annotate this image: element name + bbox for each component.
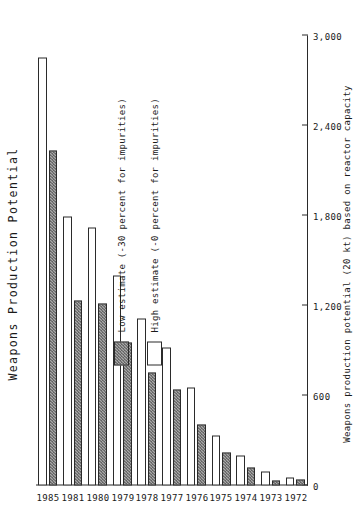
bar-low-estimate [74,301,83,486]
bar-low-estimate [296,479,305,485]
value-tick-label: 0 [313,481,319,491]
bar-low-estimate [49,151,58,486]
chart-legend: Low estimate (-30 percent for impurities… [114,98,162,365]
category-axis-line [307,35,308,485]
chart-figure: Weapons Production Potential 06001,2001,… [0,0,356,527]
category-label: 1980 [86,492,109,502]
bar-high-estimate [38,58,47,486]
category-label: 1979 [111,492,134,502]
bar-high-estimate [88,227,97,485]
bar-low-estimate [197,424,206,485]
value-tick-label: 2,400 [313,121,342,131]
value-tick-label: 600 [313,391,330,401]
chart-title: Weapons Production Potential [6,0,20,527]
bar-low-estimate [247,467,256,485]
bar-low-estimate [98,304,107,486]
legend-swatch-high [147,341,162,365]
value-tick [302,394,308,395]
value-tick-label: 1,200 [313,301,342,311]
bar-high-estimate [286,477,295,485]
legend-label: High estimate (-0 percent for impurities… [150,98,160,332]
bar-high-estimate [187,387,196,485]
bar-low-estimate [222,452,231,485]
category-label: 1985 [37,492,60,502]
bar-high-estimate [63,217,72,486]
bar-low-estimate [148,372,157,485]
category-label: 1972 [284,492,307,502]
category-label: 1981 [62,492,85,502]
value-tick [302,34,308,35]
legend-swatch-low [114,341,129,365]
category-label: 1977 [161,492,184,502]
bar-high-estimate [162,347,171,485]
value-tick [302,304,308,305]
bar-low-estimate [272,481,281,486]
bar-high-estimate [212,436,221,486]
value-tick [302,124,308,125]
value-tick [302,214,308,215]
category-label: 1975 [210,492,233,502]
category-label: 1976 [185,492,208,502]
x-axis-caption: Weapons production potential (20 kt) bas… [342,0,352,527]
bar-high-estimate [236,455,245,485]
category-label: 1978 [136,492,159,502]
bar-low-estimate [173,389,182,485]
legend-item: High estimate (-0 percent for impurities… [147,98,162,365]
category-label: 1974 [235,492,258,502]
value-tick-label: 3,000 [313,31,342,41]
legend-label: Low estimate (-30 percent for impurities… [117,98,127,332]
legend-item: Low estimate (-30 percent for impurities… [114,98,129,365]
bar-high-estimate [261,471,270,485]
plot-area: 06001,2001,8002,4003,000 197219731974197… [36,35,308,485]
value-tick-label: 1,800 [313,211,342,221]
category-label: 1973 [259,492,282,502]
